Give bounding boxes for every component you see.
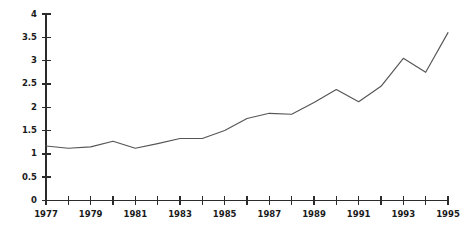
x-tick-label: 1985 [213,209,237,219]
y-tick-label: 0 [31,195,37,205]
x-tick-label: 1981 [123,209,147,219]
x-tick-label: 1993 [391,209,415,219]
y-tick-label: 3 [31,55,37,65]
y-axis: 00.511.522.533.54 [22,9,51,206]
y-tick-label: 0.5 [22,172,37,182]
x-tick-label: 1995 [436,209,460,219]
x-tick-label: 1979 [79,209,103,219]
x-tick-label: 1987 [257,209,281,219]
x-axis: 1977197919811983198519871989199119931995 [34,196,460,219]
x-tick-label: 1991 [347,209,371,219]
line-chart: 00.511.522.533.54 1977197919811983198519… [0,0,468,237]
y-tick-label: 2 [31,102,37,112]
y-tick-label: 3.5 [22,32,37,42]
y-tick-label: 2.5 [22,78,37,88]
x-tick-label: 1983 [168,209,192,219]
data-line-0 [46,33,448,149]
y-tick-label: 1 [31,148,37,158]
chart-canvas: 00.511.522.533.54 1977197919811983198519… [0,0,468,237]
y-tick-label: 1.5 [22,125,37,135]
y-tick-label: 4 [31,9,37,19]
data-series-group [46,33,448,149]
x-tick-label: 1977 [34,209,58,219]
x-tick-label: 1989 [302,209,326,219]
